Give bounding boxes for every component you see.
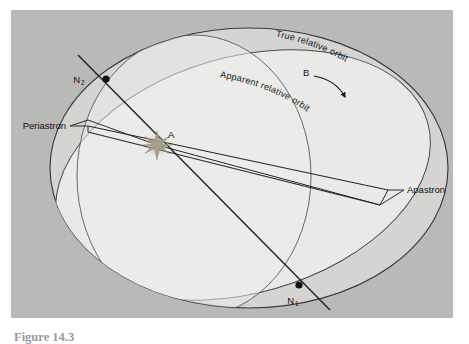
periastron-label: Periastron bbox=[23, 120, 66, 131]
node-n1-label: N bbox=[287, 295, 294, 306]
figure-caption: Figure 14.3 bbox=[14, 330, 74, 344]
node-n1-dot bbox=[295, 281, 302, 288]
node-n2-label: N bbox=[73, 74, 80, 85]
orbit-diagram: A N 2 N 1 Periastron Apastron True relat… bbox=[0, 0, 469, 344]
node-n2-dot bbox=[102, 75, 109, 82]
primary-star-label: A bbox=[168, 129, 175, 140]
figure-container: A N 2 N 1 Periastron Apastron True relat… bbox=[0, 0, 469, 344]
node-n2-subscript: 2 bbox=[81, 79, 85, 86]
node-n1-subscript: 1 bbox=[295, 300, 299, 307]
secondary-star-label: B bbox=[303, 67, 309, 78]
apastron-label: Apastron bbox=[407, 184, 445, 195]
